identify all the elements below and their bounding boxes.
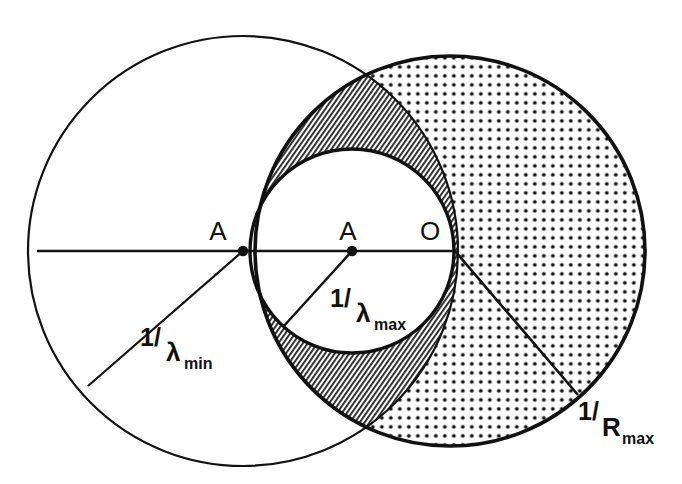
label-lambda-max-symbol: λ (356, 298, 371, 328)
label-lambda-max-subscript: max (374, 316, 406, 333)
label-r-max-symbol: R (602, 412, 621, 442)
ewald-diagram-canvas: A A O 1/ λ min 1/ λ max 1/ R max (0, 0, 682, 484)
label-r-max-subscript: max (622, 430, 654, 447)
label-lambda-min-subscript: min (184, 355, 212, 372)
label-r-max-numerator: 1/ (578, 397, 599, 425)
label-point-origin: O (420, 216, 440, 246)
ewald-diagram-figure: A A O 1/ λ min 1/ λ max 1/ R max (0, 0, 682, 484)
center-dot-a-right (347, 246, 357, 256)
center-dot-a-left (238, 246, 248, 256)
label-lambda-min-symbol: λ (166, 337, 181, 367)
label-lambda-min-numerator: 1/ (140, 323, 161, 351)
label-point-a-left: A (209, 216, 227, 246)
label-lambda-max-numerator: 1/ (330, 284, 351, 312)
label-point-a-right: A (339, 216, 357, 246)
